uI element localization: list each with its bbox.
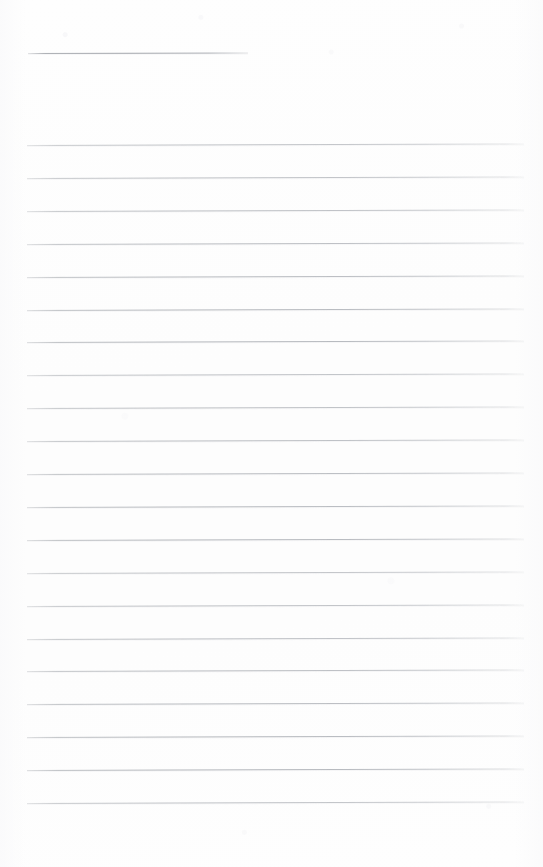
ruled-line [27, 406, 524, 409]
ruled-line [27, 143, 524, 146]
ruled-line [27, 604, 524, 607]
ruled-line [27, 373, 524, 376]
ruled-line [27, 209, 524, 212]
ruled-line [27, 669, 524, 672]
ruled-line [27, 472, 524, 475]
ruled-line [27, 340, 524, 343]
ruled-line [27, 308, 524, 311]
ruled-line [27, 538, 524, 541]
title-rule [28, 52, 248, 54]
ruled-line [27, 702, 524, 705]
ruled-line [27, 242, 524, 245]
ruled-line [27, 505, 524, 508]
ruled-line [27, 439, 524, 442]
ruled-line [27, 571, 524, 574]
ruled-line [27, 735, 524, 738]
ruled-line [27, 801, 524, 804]
ruled-line [27, 275, 524, 278]
scanned-page [0, 0, 543, 867]
ruled-line [27, 176, 524, 179]
ruled-line [27, 768, 524, 771]
ruled-line [27, 637, 524, 640]
